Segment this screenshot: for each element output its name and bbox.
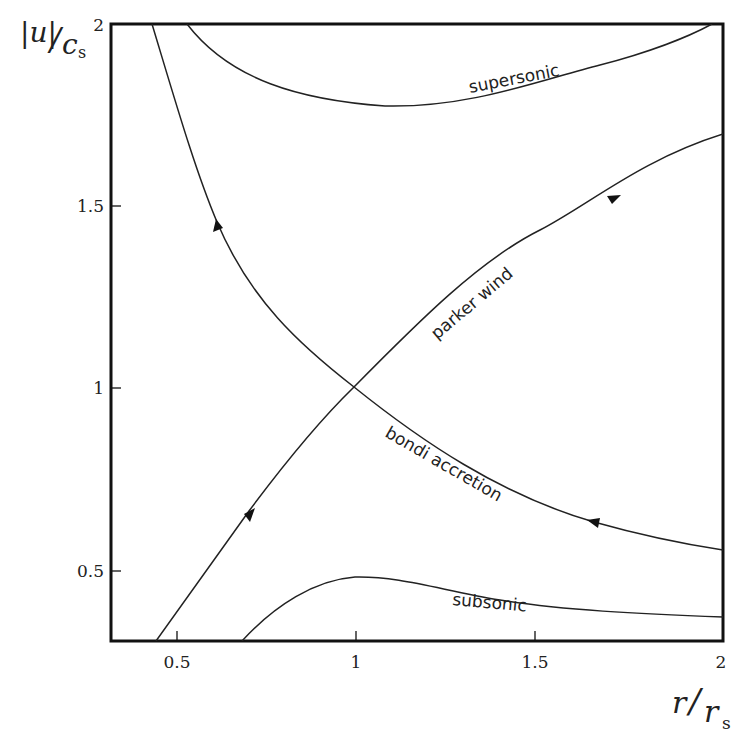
plot-frame <box>111 24 723 641</box>
svg-text:/: / <box>686 681 704 721</box>
supersonic-curve <box>187 24 712 106</box>
y-axis-label: |u| / c s <box>20 16 86 62</box>
y-tick-label: 1 <box>93 378 104 398</box>
x-tick-label: 1 <box>351 652 362 672</box>
x-axis-label: r / r s <box>672 681 731 733</box>
svg-text:r: r <box>704 694 720 729</box>
bondi-accretion-label: bondi accretion <box>382 422 506 505</box>
svg-text:s: s <box>722 713 731 733</box>
y-tick-label: 0.5 <box>77 561 104 581</box>
svg-text:s: s <box>78 43 86 62</box>
arrow-up-icon <box>213 219 223 232</box>
parker-wind-curve <box>156 134 723 641</box>
x-tick-label: 0.5 <box>163 652 190 672</box>
subsonic-label: subsonic <box>452 589 528 615</box>
x-tick-label: 1.5 <box>521 652 548 672</box>
y-tick-label: 1.5 <box>77 196 104 216</box>
y-tick-label: 2 <box>93 15 104 35</box>
svg-text:c: c <box>62 28 78 61</box>
x-axis: 0.5 1 1.5 2 r / r s <box>163 631 730 733</box>
svg-text:r: r <box>672 685 688 720</box>
arrow-right-icon <box>607 195 621 204</box>
arrow-left-icon <box>587 518 600 528</box>
x-tick-label: 2 <box>716 652 727 672</box>
chart-canvas: 0.5 1 1.5 2 r / r s 1.5 1 0.5 2 |u| / c … <box>0 0 746 733</box>
y-axis: 1.5 1 0.5 2 |u| / c s <box>20 15 121 581</box>
supersonic-label: supersonic <box>467 60 561 97</box>
